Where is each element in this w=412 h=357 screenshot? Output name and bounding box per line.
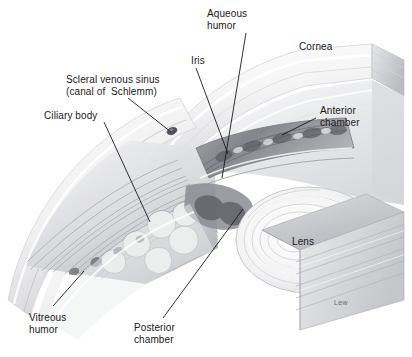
label-lens: Lens <box>292 236 314 248</box>
label-vitreous-humor: Vitreous humor <box>29 312 66 335</box>
label-ciliary-body: Ciliary body <box>44 110 97 122</box>
eye-anatomy-illustration <box>0 0 412 357</box>
label-anterior-chamber: Anterior chamber <box>320 105 360 128</box>
label-posterior-chamber: Posterior chamber <box>134 322 175 345</box>
label-iris: Iris <box>191 55 205 67</box>
artist-signature: Lew <box>334 299 348 306</box>
label-aqueous-humor: Aqueous humor <box>207 8 247 31</box>
label-cornea: Cornea <box>299 41 332 53</box>
label-scleral-venous-sinus: Scleral venous sinus (canal of Schlemm) <box>66 74 160 97</box>
eye-anatomy-figure: Aqueous humorCorneaIrisScleral venous si… <box>0 0 412 357</box>
